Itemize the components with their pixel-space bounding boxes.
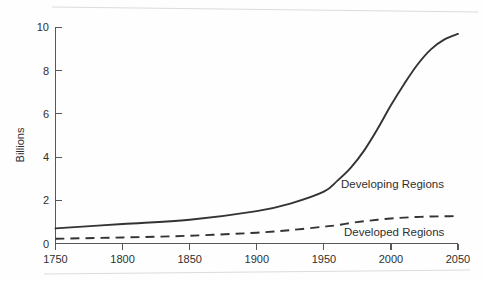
series-label-developing-regions: Developing Regions: [341, 178, 444, 190]
y-axis-ticks: [56, 28, 63, 201]
y-tick-label-2: 2: [43, 194, 49, 206]
y-tick-label-4: 4: [43, 151, 49, 163]
scan-artifact-line-bottom: [44, 270, 470, 274]
y-axis-title: Billions: [14, 127, 26, 162]
x-tick-label-2050: 2050: [446, 253, 470, 265]
x-tick-label-1850: 1850: [177, 253, 201, 265]
population-growth-chart: 10 8 6 4 2 0 1750 1800 1850 1900 1950 20…: [0, 0, 482, 282]
series-line-developing-regions: [56, 34, 459, 228]
x-tick-label-1950: 1950: [312, 253, 336, 265]
x-tick-label-1750: 1750: [43, 253, 67, 265]
x-axis-ticks: [56, 244, 459, 251]
y-tick-label-6: 6: [43, 108, 49, 120]
scan-artifact-line-top: [52, 7, 478, 12]
x-tick-label-1900: 1900: [245, 253, 269, 265]
x-tick-label-2000: 2000: [379, 253, 403, 265]
series-label-developed-regions: Developed Regions: [344, 226, 445, 238]
chart-canvas: 10 8 6 4 2 0 1750 1800 1850 1900 1950 20…: [0, 0, 482, 282]
y-tick-label-8: 8: [43, 65, 49, 77]
y-tick-label-0: 0: [43, 238, 49, 250]
y-tick-label-10: 10: [37, 21, 49, 33]
x-tick-label-1800: 1800: [110, 253, 134, 265]
